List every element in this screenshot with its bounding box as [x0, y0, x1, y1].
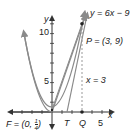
parabola-diagram: y x 10 5 5 y = 6x − 9 P = (3, 9) x = 3 T…: [0, 0, 135, 134]
point-q-label: Q: [79, 119, 86, 128]
parabola-curve: [24, 14, 85, 107]
x-axis: [10, 110, 112, 114]
focus-label-suffix: ): [38, 119, 41, 129]
point-p-label: P = (3, 9): [86, 37, 123, 46]
focus-label-prefix: F = (0,: [6, 119, 35, 129]
y-tick-5: 5: [44, 77, 49, 86]
x-tick-5: 5: [98, 119, 103, 128]
y-tick-10: 10: [39, 28, 49, 37]
segment-f-p: [52, 24, 82, 110]
focus-to-p-line: [52, 17, 85, 112]
point-p: [80, 22, 84, 26]
y-axis-label: y: [44, 15, 49, 24]
point-t-label: T: [64, 119, 70, 128]
point-f: [51, 109, 53, 111]
point-q: [80, 110, 84, 114]
vertical-line-label: x = 3: [86, 76, 106, 85]
diagram-canvas: [0, 0, 135, 134]
line-equation-label: y = 6x − 9: [90, 9, 130, 18]
tangent-line: [67, 15, 87, 112]
focus-label: F = (0, 14): [6, 118, 41, 131]
x-axis-label: x: [108, 111, 113, 120]
